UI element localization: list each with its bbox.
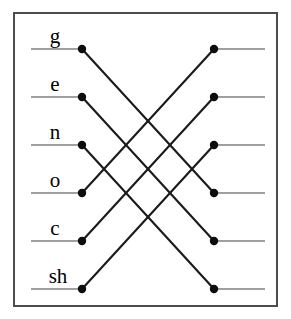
diagram-canvas: genocsh bbox=[0, 0, 291, 319]
node-label-g: g bbox=[50, 24, 61, 48]
node-dot-right bbox=[210, 141, 218, 149]
node-dot-right bbox=[210, 189, 218, 197]
node-dot-left bbox=[78, 45, 86, 53]
node-dot-right bbox=[210, 285, 218, 293]
node-label-sh: sh bbox=[49, 264, 68, 288]
node-dot-left bbox=[78, 93, 86, 101]
node-label-o: o bbox=[50, 168, 61, 192]
node-dot-left bbox=[78, 141, 86, 149]
node-label-e: e bbox=[50, 72, 59, 96]
node-dot-left bbox=[78, 285, 86, 293]
node-dot-right bbox=[210, 93, 218, 101]
node-dot-left bbox=[78, 189, 86, 197]
node-label-c: c bbox=[50, 216, 59, 240]
node-dot-right bbox=[210, 45, 218, 53]
node-label-n: n bbox=[50, 120, 61, 144]
node-dot-left bbox=[78, 237, 86, 245]
crossing-diagram: genocsh bbox=[0, 0, 291, 319]
node-dot-right bbox=[210, 237, 218, 245]
diagram-border bbox=[14, 13, 277, 306]
